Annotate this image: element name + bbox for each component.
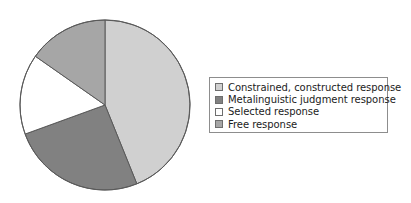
- legend-label-constrained-constructed-response: Constrained, constructed response: [228, 82, 401, 93]
- legend-label-free-response: Free response: [228, 119, 297, 130]
- pie-slice-group: [20, 20, 190, 190]
- legend-label-selected-response: Selected response: [228, 106, 319, 117]
- pie-chart-figure: Constrained, constructed response Metali…: [0, 0, 411, 203]
- legend-box: Constrained, constructed response Metali…: [209, 77, 388, 133]
- legend-swatch-metalinguistic-judgment-response: [215, 96, 223, 104]
- legend-item-selected-response[interactable]: Selected response: [215, 106, 383, 118]
- legend-item-metalinguistic-judgment-response[interactable]: Metalinguistic judgment response: [215, 93, 383, 105]
- pie-chart-plot-area: [18, 17, 194, 193]
- legend-item-free-response[interactable]: Free response: [215, 118, 383, 130]
- legend-swatch-free-response: [215, 120, 223, 128]
- legend-item-constrained-constructed-response[interactable]: Constrained, constructed response: [215, 81, 383, 93]
- legend-swatch-constrained-constructed-response: [215, 83, 223, 91]
- legend-swatch-selected-response: [215, 108, 223, 116]
- legend-label-metalinguistic-judgment-response: Metalinguistic judgment response: [228, 94, 396, 105]
- pie-chart-svg: [18, 17, 194, 193]
